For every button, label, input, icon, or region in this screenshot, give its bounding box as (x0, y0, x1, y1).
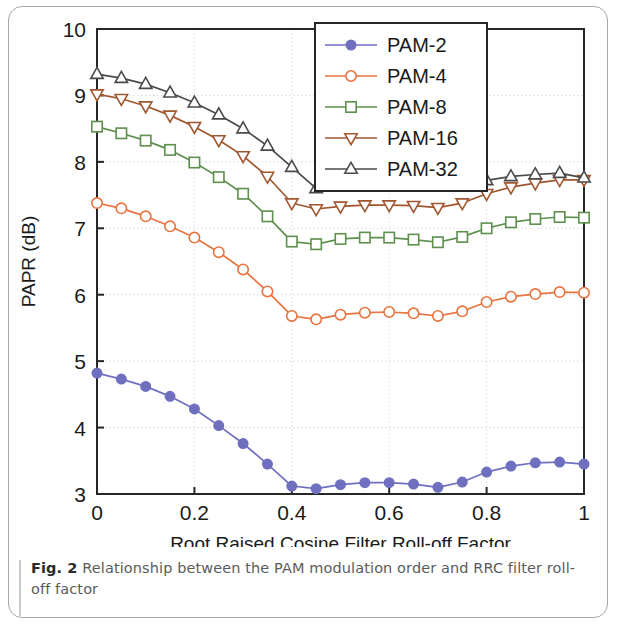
legend-marker (346, 40, 356, 50)
data-point (457, 306, 467, 316)
data-point (311, 239, 321, 249)
data-point (238, 264, 248, 274)
data-point (189, 232, 199, 242)
data-point (261, 139, 273, 150)
data-point (433, 237, 443, 247)
data-point (457, 477, 467, 487)
data-point (92, 368, 102, 378)
data-point (457, 232, 467, 242)
data-point (141, 211, 151, 221)
data-point (214, 172, 224, 182)
legend-label: PAM-16 (387, 127, 458, 149)
y-tick-labels: 345678910 (63, 18, 87, 506)
data-point (141, 135, 151, 145)
data-point (579, 459, 589, 469)
data-point (530, 214, 540, 224)
x-axis-title: Root Raised Cosine Filter Roll-off Facto… (170, 533, 511, 547)
data-point (360, 478, 370, 488)
y-tick-label: 9 (74, 84, 86, 107)
x-tick-label: 0.8 (472, 501, 501, 524)
y-tick-label: 3 (74, 483, 86, 506)
data-point (554, 287, 564, 297)
data-point (141, 382, 151, 392)
data-point (407, 202, 419, 213)
caption-figure-number: Fig. 2 (31, 560, 78, 576)
data-point (408, 308, 418, 318)
data-point (92, 198, 102, 208)
data-point (553, 166, 565, 177)
x-tick-label: 0.6 (375, 501, 404, 524)
data-point (579, 212, 589, 222)
y-tick-label: 10 (63, 18, 86, 41)
data-point (555, 457, 565, 467)
data-point (263, 459, 273, 469)
data-point (433, 311, 443, 321)
data-point (165, 145, 175, 155)
caption-text-line: Fig. 2 Relationship between the PAM modu… (31, 558, 591, 600)
x-tick-label: 0 (91, 501, 103, 524)
caption-body: Relationship between the PAM modulation … (31, 560, 575, 597)
y-tick-label: 6 (74, 284, 86, 307)
data-point (165, 221, 175, 231)
data-point (529, 168, 541, 179)
figure-caption: Fig. 2 Relationship between the PAM modu… (31, 558, 591, 600)
data-point (506, 217, 516, 227)
data-point (383, 201, 395, 212)
data-point (482, 467, 492, 477)
x-tick-label: 1 (578, 501, 590, 524)
data-point (214, 247, 224, 257)
legend-label: PAM-32 (387, 158, 458, 180)
legend-label: PAM-2 (387, 34, 447, 56)
y-axis-title: PAPR (dB) (18, 216, 39, 308)
data-point (360, 307, 370, 317)
data-point (311, 314, 321, 324)
y-tick-label: 8 (74, 151, 86, 174)
x-tick-label: 0.2 (180, 501, 209, 524)
y-tick-label: 5 (74, 350, 86, 373)
data-point (384, 478, 394, 488)
data-point (165, 392, 175, 402)
x-tick-labels: 00.20.40.60.81 (91, 501, 590, 524)
legend-marker (346, 102, 356, 112)
data-point (311, 484, 321, 494)
data-point (408, 234, 418, 244)
legend-marker (346, 71, 356, 81)
y-tick-label: 7 (74, 217, 86, 240)
data-point (287, 311, 297, 321)
data-point (91, 67, 103, 78)
y-tick-label: 4 (74, 417, 86, 440)
data-point (237, 152, 249, 163)
data-point (238, 189, 248, 199)
data-point (579, 288, 589, 298)
data-point (481, 297, 491, 307)
data-point (190, 404, 200, 414)
series-pam-2 (92, 368, 589, 493)
data-point (531, 458, 541, 468)
papr-line-chart: 00.20.40.60.81 345678910 PAM-2PAM-4PAM-8… (9, 7, 609, 547)
data-point (506, 461, 516, 471)
data-point (116, 203, 126, 213)
data-point (287, 481, 297, 491)
data-point (359, 201, 371, 212)
data-point (237, 122, 249, 133)
data-point (481, 223, 491, 233)
data-point (336, 480, 346, 490)
data-point (117, 374, 127, 384)
data-point (506, 292, 516, 302)
legend-label: PAM-8 (387, 96, 447, 118)
data-point (262, 286, 272, 296)
data-point (335, 309, 345, 319)
data-point (554, 212, 564, 222)
data-point (189, 157, 199, 167)
legend-label: PAM-4 (387, 65, 447, 87)
data-point (360, 232, 370, 242)
data-point (530, 289, 540, 299)
data-point (116, 128, 126, 138)
chart-legend: PAM-2PAM-4PAM-8PAM-16PAM-32 (315, 23, 487, 191)
data-point (213, 136, 225, 147)
data-point (310, 205, 322, 216)
data-point (214, 421, 224, 431)
data-point (287, 236, 297, 246)
data-point (384, 307, 394, 317)
caption-divider (19, 560, 21, 616)
